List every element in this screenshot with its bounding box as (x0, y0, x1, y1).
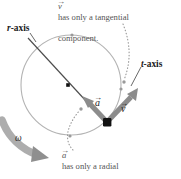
tick-dot-right (119, 87, 122, 90)
tangential-component-caption: →v has only a tangential component. (58, 1, 178, 43)
velocity-vector-label: →v (121, 103, 125, 114)
bottom-caption-leader (68, 110, 80, 150)
t-axis-label: t-axis (141, 59, 162, 69)
r-axis-label: r-axis (7, 23, 29, 33)
vector-arrow-accent-icon: → (57, 0, 65, 6)
caption-top-line1: has only a tangential (58, 12, 129, 22)
vector-arrow-accent-icon: → (61, 147, 69, 155)
vec-a-symbol: →a (95, 97, 100, 108)
bottom-leader-endpoint (79, 107, 82, 110)
radial-component-caption: →a has only a radial component. (62, 150, 180, 179)
angular-velocity-label: ω (15, 133, 22, 143)
caption-top-vector-symbol: →v (58, 1, 62, 12)
t-axis-suffix: -axis (144, 59, 163, 69)
r-axis-suffix: -axis (11, 23, 30, 33)
vector-arrow-accent-icon: → (120, 100, 128, 108)
acceleration-vector-label: →a (95, 97, 100, 108)
t-axis-leader (131, 67, 141, 86)
caption-bottom-vector-symbol: →a (62, 150, 66, 161)
caption-top-line2: component. (58, 33, 98, 43)
caption-bottom-line1: has only a radial (62, 161, 119, 171)
vector-arrow-accent-icon: → (94, 94, 102, 102)
tick-dot-bottom (68, 134, 71, 137)
vec-v-symbol: →v (121, 103, 125, 114)
r-axis-line (28, 38, 86, 101)
circle-center-dot (66, 83, 70, 87)
particle-dot (103, 118, 111, 126)
circular-motion-figure: →v has only a tangential component. →a h… (0, 0, 181, 179)
top-leader-endpoint (122, 80, 125, 83)
